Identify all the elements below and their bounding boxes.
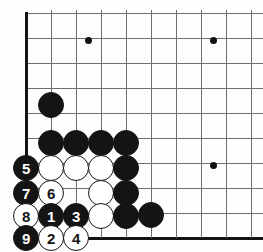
stone-black-black-wall-b: [63, 130, 89, 156]
grid-line-vertical: [176, 10, 177, 238]
grid-line-horizontal: [26, 88, 263, 89]
stone-white-white-group-b: [63, 155, 89, 181]
grid-line-horizontal: [26, 13, 263, 14]
stone-black-black-side-a: [113, 155, 139, 181]
star-point-lower-right-icon: [210, 162, 217, 169]
stone-black-black-wall-d: [113, 130, 139, 156]
stone-move-number: 4: [72, 230, 80, 245]
stone-move-number: 5: [22, 160, 30, 175]
go-board-diagram: 576813924: [0, 0, 263, 252]
stone-move-5: 5: [13, 155, 39, 181]
star-point-upper-icon: [85, 37, 92, 44]
stone-move-9: 9: [13, 225, 39, 251]
stone-white-white-group-e: [88, 203, 114, 229]
stone-black-black-outpost-lower: [138, 202, 164, 228]
stone-white-white-group-a: [38, 155, 64, 181]
stone-move-number: 8: [22, 208, 30, 223]
stone-black-black-side-c: [113, 203, 139, 229]
grid-line-vertical: [251, 10, 252, 238]
stone-black-black-wall-a: [38, 130, 64, 156]
stone-move-4: 4: [63, 225, 89, 251]
grid-line-horizontal: [26, 63, 263, 64]
grid-line-horizontal: [26, 38, 263, 39]
star-point-upper-right-icon: [210, 37, 217, 44]
stone-move-number: 1: [47, 208, 55, 223]
stone-move-number: 9: [22, 230, 30, 245]
stone-move-number: 6: [47, 185, 55, 200]
stone-black-black-wall-c: [88, 130, 114, 156]
stone-white-white-group-c: [88, 155, 114, 181]
stone-black-black-outpost-upper: [38, 92, 64, 118]
grid-line-vertical: [226, 10, 227, 238]
stone-move-number: 2: [47, 230, 55, 245]
stone-move-number: 3: [72, 208, 80, 223]
grid-line-vertical: [201, 10, 202, 238]
grid-line-horizontal: [26, 113, 263, 114]
stone-move-2: 2: [38, 225, 64, 251]
stone-move-number: 7: [22, 185, 30, 200]
